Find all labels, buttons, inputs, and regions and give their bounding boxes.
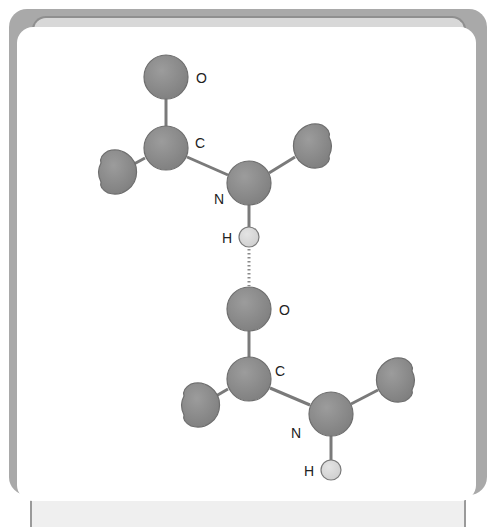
label-oxygen-lower: O [279, 302, 290, 318]
label-oxygen-upper: O [196, 70, 207, 86]
atom-carbon-lower [227, 357, 271, 401]
label-hydrogen-upper: H [222, 230, 232, 246]
label-carbon-lower: C [275, 363, 285, 379]
bond-c1-n1 [187, 157, 228, 175]
bond-n1-r1b [269, 157, 295, 173]
atom-nitrogen-lower [309, 392, 353, 436]
bond-c2-n2 [270, 388, 310, 405]
atom-oxygen-lower [227, 287, 271, 331]
atom-nitrogen-upper [227, 161, 271, 205]
label-nitrogen-upper: N [214, 191, 224, 207]
atom-hydrogen-upper [239, 227, 259, 247]
partial-group-upper-left [99, 150, 137, 194]
partial-group-lower-right [376, 358, 414, 402]
atom-hydrogen-lower [321, 460, 341, 480]
partial-group-upper-right [293, 124, 331, 168]
bond-n2-r2b [351, 390, 378, 404]
label-nitrogen-lower: N [291, 425, 301, 441]
molecule-diagram: O C N H O C N H [0, 0, 499, 527]
partial-group-lower-left [182, 383, 220, 427]
bond-c1-r1a [134, 158, 145, 164]
label-hydrogen-lower: H [304, 463, 314, 479]
label-carbon-upper: C [195, 135, 205, 151]
atom-oxygen-upper [144, 55, 188, 99]
atom-carbon-upper [144, 126, 188, 170]
